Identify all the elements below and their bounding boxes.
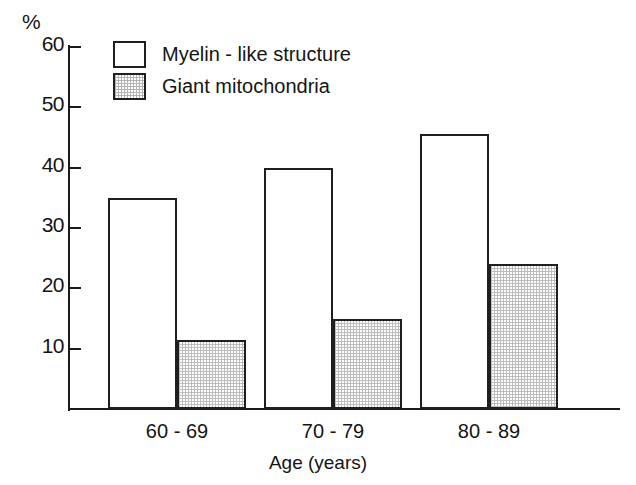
chart-legend: Myelin - like structure Giant mitochondr… (113, 38, 351, 102)
bar (333, 319, 402, 410)
bar (177, 340, 246, 409)
y-axis-tick-label: 50 (14, 92, 64, 116)
y-axis-tick-label: 40 (14, 153, 64, 177)
bar (264, 168, 333, 409)
y-axis-tick-label: 20 (14, 273, 64, 297)
stippled-box-swatch-icon (113, 73, 146, 100)
y-axis-tick-label: 60 (14, 32, 64, 56)
legend-label: Giant mitochondria (162, 75, 330, 98)
y-axis-tick-label: 30 (14, 213, 64, 237)
y-axis-unit-label: % (22, 10, 41, 34)
x-axis-title: Age (years) (0, 452, 636, 474)
x-axis-category-label: 70 - 79 (273, 420, 393, 443)
open-box-swatch-icon (113, 41, 146, 68)
bar (108, 198, 177, 409)
y-axis-tick-label: 10 (14, 334, 64, 358)
legend-label: Myelin - like structure (162, 43, 351, 66)
bar (489, 264, 558, 409)
legend-item-giant-mitochondria: Giant mitochondria (113, 70, 351, 102)
bar (420, 134, 489, 409)
legend-item-myelin: Myelin - like structure (113, 38, 351, 70)
x-axis-category-label: 60 - 69 (117, 420, 237, 443)
x-axis-category-label: 80 - 89 (429, 420, 549, 443)
bar-chart-figure: % 605040302010 60 - 6970 - 7980 - 89 Age… (0, 0, 636, 485)
